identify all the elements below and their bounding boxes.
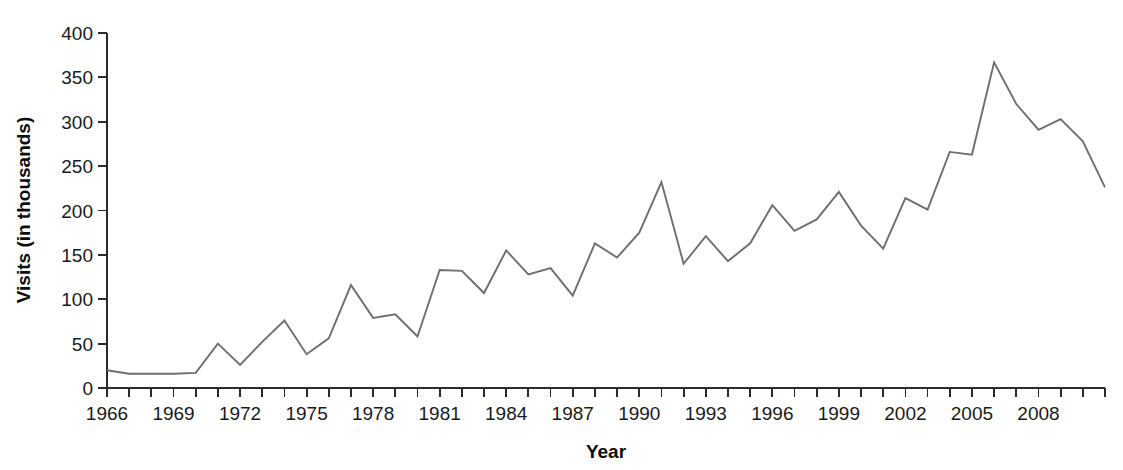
x-tick-label: 1981 <box>419 403 461 424</box>
x-tick-label: 2005 <box>951 403 993 424</box>
x-tick-label: 1993 <box>685 403 727 424</box>
y-tick-label: 100 <box>61 289 93 310</box>
x-tick-label: 1996 <box>751 403 793 424</box>
y-tick-label: 0 <box>82 378 93 399</box>
y-axis-title: Visits (in thousands) <box>13 117 34 304</box>
x-tick-label: 1990 <box>618 403 660 424</box>
y-tick-label: 400 <box>61 23 93 44</box>
x-tick-label: 1987 <box>552 403 594 424</box>
x-tick-label: 1969 <box>152 403 194 424</box>
x-tick-group: 1966196919721975197819811984198719901993… <box>86 388 1105 424</box>
axis-spines <box>107 33 1105 388</box>
y-tick-group: 050100150200250300350400 <box>61 23 107 399</box>
data-series-line <box>107 62 1105 374</box>
x-tick-label: 2008 <box>1017 403 1059 424</box>
x-tick-label: 1966 <box>86 403 128 424</box>
x-tick-label: 1999 <box>818 403 860 424</box>
y-tick-label: 200 <box>61 201 93 222</box>
line-chart-figure: 050100150200250300350400 196619691972197… <box>0 0 1123 470</box>
axis-group <box>107 33 1105 388</box>
y-tick-label: 350 <box>61 67 93 88</box>
x-tick-label: 1984 <box>485 403 528 424</box>
x-tick-label: 1978 <box>352 403 394 424</box>
chart-canvas: 050100150200250300350400 196619691972197… <box>0 0 1123 470</box>
x-axis-title: Year <box>586 441 627 462</box>
y-tick-label: 150 <box>61 245 93 266</box>
x-tick-label: 2002 <box>884 403 926 424</box>
y-tick-label: 300 <box>61 112 93 133</box>
x-tick-label: 1972 <box>219 403 261 424</box>
data-series-group <box>107 62 1105 374</box>
y-tick-label: 50 <box>72 334 93 355</box>
y-tick-label: 250 <box>61 156 93 177</box>
x-tick-label: 1975 <box>285 403 327 424</box>
